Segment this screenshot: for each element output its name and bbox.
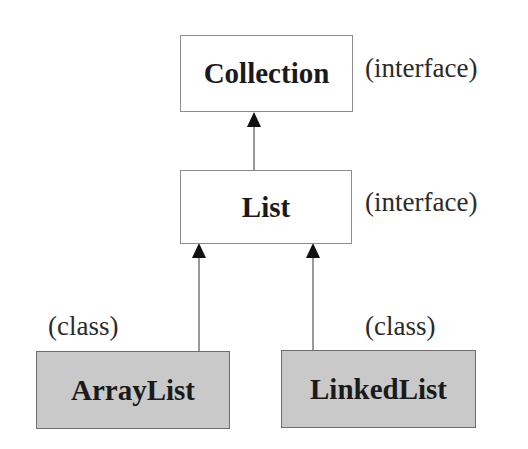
node-linkedlist-name: LinkedList [310, 373, 447, 406]
node-linkedlist: LinkedList [281, 350, 476, 428]
arrowhead-icon [192, 243, 206, 258]
arrowhead-icon [306, 243, 320, 258]
node-collection: Collection [180, 35, 353, 112]
node-linkedlist-kind: (class) [365, 311, 435, 342]
node-arraylist-kind: (class) [48, 311, 118, 342]
node-arraylist-name: ArrayList [71, 374, 195, 407]
node-list-name: List [242, 191, 290, 224]
node-collection-name: Collection [204, 57, 330, 90]
node-collection-kind: (interface) [365, 53, 477, 84]
arrowhead-icon [247, 112, 261, 127]
node-arraylist: ArrayList [36, 351, 230, 429]
node-list: List [180, 170, 352, 244]
node-list-kind: (interface) [365, 187, 477, 218]
